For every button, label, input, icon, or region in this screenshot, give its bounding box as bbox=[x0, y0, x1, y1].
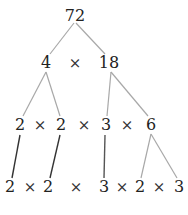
times-operator: × bbox=[121, 118, 134, 133]
node-l3-2: 2 bbox=[56, 117, 66, 133]
branch-3-3 bbox=[104, 135, 105, 178]
branch-2-2b bbox=[50, 135, 60, 178]
times-operator: × bbox=[70, 180, 83, 195]
times-operator: × bbox=[24, 180, 37, 195]
node-l3-6: 6 bbox=[146, 117, 156, 133]
branch-72-4 bbox=[50, 23, 74, 54]
branch-6-3 bbox=[151, 134, 177, 178]
branch-6-2 bbox=[141, 134, 151, 178]
times-operator: × bbox=[116, 180, 129, 195]
branch-18-6 bbox=[111, 72, 148, 116]
times-operator: × bbox=[69, 56, 82, 71]
branch-2-2a bbox=[12, 135, 20, 178]
times-operator: × bbox=[153, 180, 166, 195]
node-l4-2: 2 bbox=[43, 179, 53, 195]
node-root: 72 bbox=[65, 8, 85, 24]
node-4: 4 bbox=[41, 55, 51, 71]
node-l4-4: 3 bbox=[99, 179, 109, 195]
factor-tree-diagram: 72 4 × 18 2 × 2 × 3 × 6 2 × 2 × 3 × 2 × … bbox=[0, 0, 188, 215]
node-18: 18 bbox=[99, 55, 119, 71]
times-operator: × bbox=[34, 118, 47, 133]
node-l3-4: 3 bbox=[101, 117, 111, 133]
node-l3-0: 2 bbox=[15, 117, 25, 133]
branch-72-18 bbox=[76, 23, 105, 54]
times-operator: × bbox=[78, 118, 91, 133]
branch-4-2b bbox=[46, 72, 60, 116]
node-l4-0: 2 bbox=[5, 179, 15, 195]
branch-18-3 bbox=[107, 72, 111, 116]
branch-4-2a bbox=[23, 72, 46, 116]
node-l4-8: 3 bbox=[174, 179, 184, 195]
node-l4-6: 2 bbox=[135, 179, 145, 195]
